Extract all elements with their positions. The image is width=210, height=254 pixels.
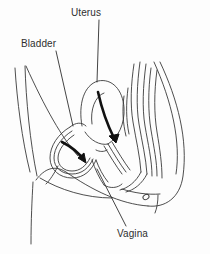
- rectal-fold-2: [123, 96, 126, 136]
- rectum-lower-2: [126, 174, 147, 192]
- leader-lines: [56, 20, 126, 226]
- direction-arrows: [62, 92, 119, 163]
- rectal-fold-1: [127, 88, 129, 134]
- back-inner-outline: [154, 62, 177, 174]
- vaginal-introitus: [104, 184, 122, 188]
- bladder-wall-3: [58, 135, 90, 171]
- label-vagina: Vagina: [117, 228, 148, 239]
- leader-line-uterus: [97, 20, 99, 82]
- rectum-line-2: [137, 62, 147, 174]
- vaginal-wall-posterior-3: [112, 142, 130, 170]
- label-uterus: Uterus: [71, 7, 101, 18]
- label-bladder: Bladder: [21, 38, 56, 49]
- gluteal-crease-tail: [155, 195, 158, 213]
- bladder-wall-2: [54, 131, 93, 174]
- cervix-line: [96, 150, 107, 152]
- left-thigh-line: [31, 182, 33, 244]
- back-buttock-outline: [148, 62, 184, 206]
- vaginal-wall-posterior-2: [108, 144, 126, 172]
- leader-line-bladder: [56, 51, 73, 126]
- rectum-line-3: [143, 64, 152, 176]
- rectum-line-1: [131, 64, 141, 172]
- anterior-abdominal-curve: [26, 66, 78, 156]
- buttock-lower-fold: [36, 168, 148, 206]
- bladder-wall-1: [50, 127, 96, 178]
- rectum-lower: [120, 172, 141, 190]
- abdominal-wall-outer: [15, 68, 30, 172]
- uterus-arrow-shaft: [98, 92, 114, 138]
- uterus-lower-outline: [85, 132, 108, 144]
- diagram-canvas: Uterus Bladder Vagina: [0, 0, 210, 254]
- uterus-arrow-head: [109, 134, 119, 143]
